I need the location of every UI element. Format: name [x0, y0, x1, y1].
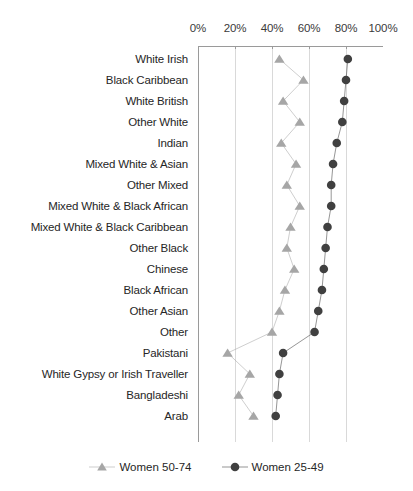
legend-label: Women 25-49	[252, 461, 324, 473]
data-point-marker	[329, 160, 338, 169]
data-point-marker	[276, 139, 286, 147]
legend-label: Women 50-74	[119, 461, 191, 473]
y-category-label: Indian	[158, 137, 188, 149]
data-point-marker	[318, 286, 327, 295]
legend-marker	[230, 463, 239, 472]
x-tick-label-100: 100%	[368, 22, 397, 34]
data-point-marker	[273, 391, 282, 400]
line-chart: 0%20%40%60%80%100% White IrishBlack Cari…	[0, 0, 413, 491]
x-tick-label-80: 80%	[335, 22, 358, 34]
y-category-label: White Irish	[135, 53, 188, 65]
plot-svg	[198, 46, 383, 442]
y-axis-category-labels: White IrishBlack CaribbeanWhite BritishO…	[0, 0, 194, 491]
y-category-label: Pakistani	[143, 347, 188, 359]
circle-marker-icon	[222, 461, 248, 473]
data-point-marker	[295, 118, 305, 126]
x-tick-label-20: 20%	[224, 22, 247, 34]
y-category-label: Other Asian	[130, 305, 188, 317]
data-point-marker	[338, 118, 347, 127]
data-point-marker	[320, 265, 329, 274]
data-point-marker	[295, 202, 305, 210]
y-category-label: White Gypsy or Irish Traveller	[42, 368, 188, 380]
y-category-label: Arab	[164, 410, 188, 422]
data-point-marker	[274, 55, 284, 63]
x-tick-label-40: 40%	[261, 22, 284, 34]
y-category-label: Mixed White & Black Caribbean	[31, 221, 188, 233]
y-category-label: Other Mixed	[127, 179, 188, 191]
data-point-marker	[289, 265, 299, 273]
y-category-label: Black African	[123, 284, 188, 296]
data-point-marker	[267, 328, 277, 336]
y-category-label: Black Caribbean	[106, 74, 188, 86]
data-point-marker	[314, 307, 323, 316]
y-category-label: Bangladeshi	[126, 389, 188, 401]
data-point-marker	[279, 349, 288, 358]
plot-area	[198, 46, 383, 442]
y-category-label: Chinese	[147, 263, 188, 275]
y-category-label: Mixed White & Black African	[48, 200, 188, 212]
data-point-marker	[344, 55, 353, 64]
data-point-marker	[323, 223, 332, 232]
data-point-marker	[321, 244, 330, 253]
data-point-marker	[310, 328, 319, 337]
data-point-marker	[222, 349, 232, 357]
data-point-marker	[285, 223, 295, 231]
data-point-marker	[282, 181, 292, 189]
data-point-marker	[271, 412, 280, 421]
data-point-marker	[291, 160, 301, 168]
legend-entry-1[interactable]: Women 25-49	[222, 461, 324, 473]
data-point-marker	[275, 370, 284, 379]
data-point-marker	[340, 97, 349, 106]
data-point-marker	[248, 412, 258, 420]
y-category-label: Mixed White & Asian	[85, 158, 188, 170]
data-point-marker	[327, 202, 336, 211]
y-category-label: Other Black	[130, 242, 188, 254]
chart-legend: Women 50-74Women 25-49	[0, 456, 413, 478]
legend-entry-0[interactable]: Women 50-74	[89, 461, 191, 473]
series-line-1	[276, 59, 348, 416]
data-point-marker	[274, 307, 284, 315]
data-point-marker	[280, 286, 290, 294]
data-point-marker	[282, 244, 292, 252]
x-tick-label-60: 60%	[298, 22, 321, 34]
data-point-marker	[332, 139, 341, 148]
y-category-label: Other White	[128, 116, 188, 128]
triangle-marker-icon	[89, 461, 115, 473]
data-point-marker	[327, 181, 336, 190]
data-point-marker	[342, 76, 351, 85]
series-line-0	[228, 59, 304, 416]
y-category-label: Other	[160, 326, 188, 338]
y-category-label: White British	[125, 95, 188, 107]
